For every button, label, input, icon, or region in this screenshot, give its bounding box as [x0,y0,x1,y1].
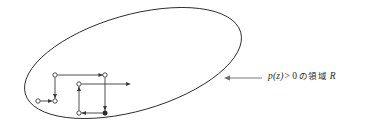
walk-node-n1 [36,99,40,103]
arrowhead-n3-n4 [99,73,104,77]
region-annotation-label: p(z)>0の領域R [268,72,336,82]
walk-node-n3 [53,73,57,77]
region-ellipse-outline [12,0,254,127]
walk-node-n6 [77,111,81,115]
walk-node-n5 [103,111,107,115]
walk-node-n7 [77,82,81,86]
walk-arrowheads-group [48,73,131,115]
figure-container: p(z)>0の領域R [0,0,371,127]
annotation-pointer-arrowhead [224,76,230,81]
arrowhead-n1-n2 [48,99,53,103]
annotation-pointer-group [224,76,262,81]
walk-node-n2 [53,99,57,103]
walk-node-n4 [103,73,107,77]
arrowhead-n7-n8 [126,82,131,86]
japanese-region-text: の領域 [298,71,328,81]
region-boundary-group [12,0,254,127]
arrowhead-n6-n7 [77,87,81,92]
figure-canvas [0,0,371,127]
walk-nodes-group [36,73,107,115]
arrowhead-n4-n5 [103,106,107,111]
arrowhead-n3-n2 [53,94,57,99]
region-symbol: R [328,71,336,81]
arrowhead-n5-n6 [82,111,87,115]
